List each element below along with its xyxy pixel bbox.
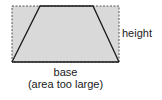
height-label: height <box>122 27 152 39</box>
base-label: base <box>0 66 131 78</box>
area-note-label: (area too large) <box>0 78 131 90</box>
bounding-rectangle <box>12 6 119 62</box>
